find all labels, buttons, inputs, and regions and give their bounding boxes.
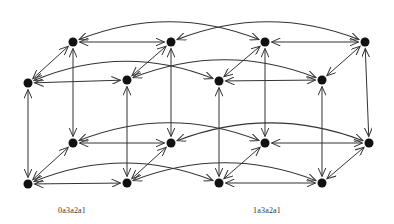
node-BF0 (24, 180, 33, 189)
edges-layer (28, 22, 369, 184)
edge-BF0-BF1 (34, 183, 120, 184)
node-TF2 (215, 77, 224, 86)
nodes-layer (24, 38, 374, 189)
node-BB2 (261, 139, 270, 148)
node-BF1 (123, 179, 132, 188)
node-TF1 (123, 76, 132, 85)
edge-BB0-BF0 (33, 147, 68, 179)
node-TB1 (167, 38, 176, 47)
node-BB3 (365, 139, 374, 148)
node-BB0 (69, 139, 78, 148)
cube-label-0a3a2a1: 0a3a2a1 (58, 206, 86, 215)
node-BB1 (167, 139, 176, 148)
edge-TB3-TF3 (327, 46, 360, 75)
hypercube-diagram (0, 0, 394, 224)
edge-TF2-TF3 (225, 80, 315, 81)
edge-TB3-BB3 (365, 48, 368, 136)
node-TB2 (261, 38, 270, 47)
node-TB3 (361, 38, 370, 47)
arc-edge-TF1-TF3 (133, 60, 316, 78)
node-TF3 (318, 76, 327, 85)
edge-TF0-TF1 (34, 80, 120, 83)
cube-label-1a3a2a1: 1a3a2a1 (253, 206, 281, 215)
node-BF3 (318, 179, 327, 188)
node-BF2 (215, 179, 224, 188)
edge-BB3-BF3 (327, 147, 364, 179)
node-TB0 (69, 38, 78, 47)
node-TF0 (24, 79, 33, 88)
